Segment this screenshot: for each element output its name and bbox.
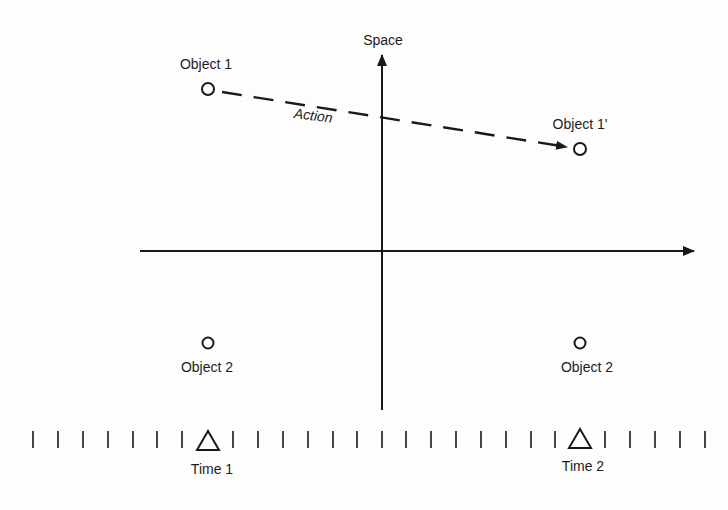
object2-time2-label: Object 2	[561, 360, 613, 374]
time1-triangle-icon	[197, 431, 219, 450]
space-axis-label: Space	[363, 33, 403, 47]
space-time-diagram	[0, 0, 728, 510]
object1-time2-circle-icon	[574, 143, 586, 155]
time2-triangle-icon	[569, 429, 591, 448]
object1-time2-label: Object 1'	[553, 117, 608, 131]
object1-time1-circle-icon	[202, 83, 214, 95]
object2-time1-circle-icon	[203, 338, 214, 349]
object2-time1-label: Object 2	[181, 360, 233, 374]
time2-label: Time 2	[562, 459, 604, 473]
object1-time1-label: Object 1	[180, 57, 232, 71]
timeline-ticks	[33, 431, 705, 448]
object2-time2-circle-icon	[575, 338, 586, 349]
action-dashed-arrow	[222, 92, 567, 147]
time1-label: Time 1	[191, 462, 233, 476]
